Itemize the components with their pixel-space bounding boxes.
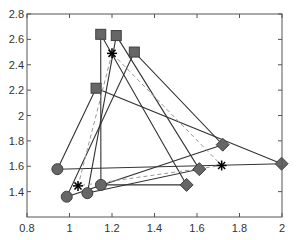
circle-marker — [95, 179, 106, 190]
y-tick-label: 2.8 — [9, 8, 24, 20]
triangle-1 — [101, 34, 187, 185]
circle-marker — [61, 191, 72, 202]
square-marker — [111, 31, 121, 41]
triangle-4 — [57, 88, 281, 169]
x-tick-label: 1.4 — [147, 222, 162, 234]
triangle-2 — [87, 36, 199, 194]
star-marker — [73, 181, 83, 191]
diamond-marker — [193, 163, 206, 176]
square-marker — [96, 29, 106, 39]
data-markers — [52, 29, 288, 202]
y-tick-label: 1.6 — [9, 160, 24, 172]
square-marker — [129, 47, 139, 57]
square-marker — [91, 83, 101, 93]
y-tick-label: 2.4 — [9, 59, 24, 71]
x-tick-label: 1.6 — [189, 222, 204, 234]
x-tick-label: 1.8 — [232, 222, 247, 234]
y-tick-label: 2 — [18, 110, 24, 122]
scatter-chart: 0.811.21.41.61.82 1.41.61.822.22.42.62.8 — [0, 0, 297, 240]
triangle-lines — [57, 34, 281, 196]
y-tick-label: 2.2 — [9, 84, 24, 96]
diamond-marker — [180, 178, 193, 191]
circle-marker — [82, 188, 93, 199]
y-axis-tick-labels: 1.41.61.822.22.42.62.8 — [9, 8, 24, 198]
star-marker — [217, 160, 227, 170]
circle-marker — [52, 164, 63, 175]
x-axis-tick-labels: 0.811.21.41.61.82 — [19, 222, 285, 234]
y-tick-label: 1.8 — [9, 135, 24, 147]
y-tick-label: 1.4 — [9, 186, 24, 198]
y-tick-label: 2.6 — [9, 33, 24, 45]
x-tick-label: 0.8 — [19, 222, 34, 234]
plot-frame — [27, 14, 282, 217]
axis-ticks — [27, 14, 282, 217]
x-tick-label: 2 — [279, 222, 285, 234]
x-tick-label: 1 — [66, 222, 72, 234]
star-marker — [107, 48, 117, 58]
x-tick-label: 1.2 — [104, 222, 119, 234]
